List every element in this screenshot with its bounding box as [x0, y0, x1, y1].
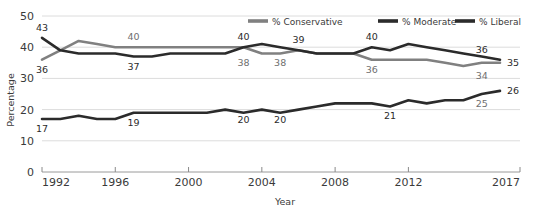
- data-point-label: 37: [128, 61, 140, 72]
- y-axis: 01020304050: [20, 10, 34, 179]
- x-tick-label: 2004: [248, 176, 276, 189]
- chart-canvas: 4336174037194038203938204036213634253526…: [0, 0, 537, 211]
- data-point-label: 19: [128, 117, 140, 128]
- x-tick-label: 1992: [42, 176, 70, 189]
- chart-legend: % Conservative% Moderate% Liberal: [248, 17, 521, 27]
- y-tick-label: 10: [20, 135, 34, 148]
- data-point-label: 35: [507, 57, 519, 68]
- data-point-label: 39: [292, 34, 304, 45]
- data-point-label: 21: [384, 110, 396, 121]
- data-point-label: 38: [237, 57, 249, 68]
- legend-label-liberal: % Liberal: [479, 17, 521, 27]
- y-tick-label: 40: [20, 41, 34, 54]
- y-tick-label: 20: [20, 104, 34, 117]
- legend-label-conservative: % Conservative: [272, 17, 343, 27]
- data-point-label: 40: [128, 31, 140, 42]
- data-point-label: 20: [274, 114, 286, 125]
- data-point-label: 20: [237, 114, 249, 125]
- data-point-label: 34: [476, 70, 488, 81]
- series-line-moderate: [42, 38, 500, 60]
- data-point-label: 40: [366, 31, 378, 42]
- x-tick-label: 2008: [321, 176, 349, 189]
- data-point-label: 26: [507, 85, 519, 96]
- data-point-label: 25: [476, 98, 488, 109]
- series-line-liberal: [42, 91, 500, 119]
- line-chart: 4336174037194038203938204036213634253526…: [0, 0, 537, 211]
- data-point-label: 17: [36, 123, 48, 134]
- x-tick-label: 2012: [394, 176, 422, 189]
- y-axis-title: Percentage: [5, 73, 16, 127]
- y-tick-label: 0: [27, 166, 34, 179]
- data-point-label: 36: [366, 64, 378, 75]
- y-tick-label: 50: [20, 10, 34, 23]
- data-point-label: 43: [36, 22, 48, 33]
- data-point-label: 40: [237, 31, 249, 42]
- data-point-label: 36: [476, 44, 488, 55]
- data-point-label: 38: [274, 57, 286, 68]
- x-tick-label: 2017: [492, 176, 520, 189]
- y-tick-label: 30: [20, 72, 34, 85]
- legend-label-moderate: % Moderate: [402, 17, 457, 27]
- x-axis: 1992199620002004200820122017: [42, 167, 520, 189]
- x-axis-title: Year: [274, 196, 295, 207]
- data-point-label: 36: [36, 64, 48, 75]
- x-tick-label: 2000: [175, 176, 203, 189]
- x-tick-label: 1996: [101, 176, 129, 189]
